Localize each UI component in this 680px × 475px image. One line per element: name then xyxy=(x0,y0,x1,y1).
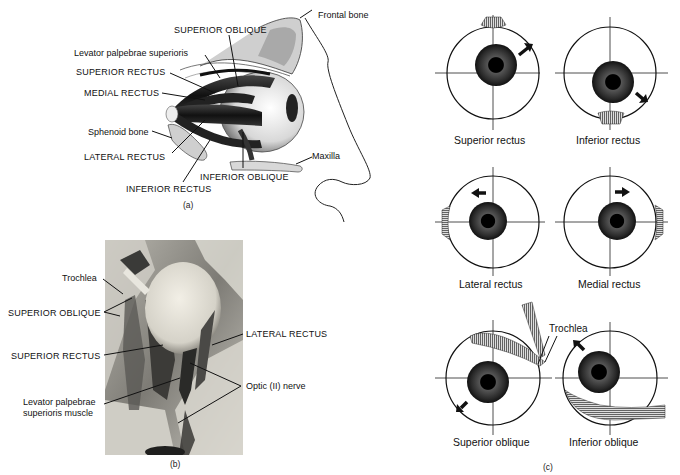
diagram-lateral-rectus xyxy=(435,167,545,276)
diagram-inferior-rectus xyxy=(555,17,668,130)
panel-c-label: (c) xyxy=(543,462,553,472)
caption-superior-rectus: Superior rectus xyxy=(454,134,525,146)
diagram-superior-rectus xyxy=(435,15,540,130)
diagram-inferior-oblique xyxy=(555,322,668,435)
caption-inferior-rectus: Inferior rectus xyxy=(576,134,640,146)
caption-medial-rectus: Medial rectus xyxy=(578,278,640,290)
label-trochlea-c: Trochlea xyxy=(549,323,588,334)
eye-movement-diagrams xyxy=(0,0,680,475)
diagram-superior-oblique xyxy=(435,302,552,435)
caption-lateral-rectus: Lateral rectus xyxy=(459,278,523,290)
caption-inferior-oblique: Inferior oblique xyxy=(569,436,638,448)
diagram-medial-rectus xyxy=(555,167,668,276)
caption-superior-oblique: Superior oblique xyxy=(453,436,529,448)
